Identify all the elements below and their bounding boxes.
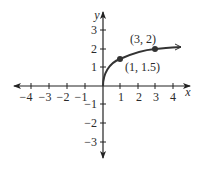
point-1-1.5 bbox=[117, 56, 123, 62]
x-tick-label: 2 bbox=[136, 90, 142, 104]
y-tick-label: −2 bbox=[84, 116, 97, 130]
x-axis-label: x bbox=[184, 85, 191, 99]
x-tick-label: −4 bbox=[20, 90, 33, 104]
graph: −4 −3 −2 −1 1 2 3 4 x 3 2 1 −1 −2 −3 y (… bbox=[0, 0, 201, 169]
point-3-2 bbox=[152, 46, 158, 52]
y-axis-label: y bbox=[93, 8, 100, 22]
x-tick-label: 3 bbox=[153, 90, 159, 104]
x-tick-label: 4 bbox=[170, 90, 176, 104]
y-tick-label: 2 bbox=[91, 42, 97, 56]
y-tick-label: −3 bbox=[84, 135, 97, 149]
y-tick-label: 3 bbox=[91, 23, 97, 37]
x-tick-label: −3 bbox=[39, 90, 52, 104]
x-tick-label: 1 bbox=[118, 90, 124, 104]
x-tick-label: −2 bbox=[57, 90, 70, 104]
point-label-2: (3, 2) bbox=[130, 32, 156, 46]
point-label-1: (1, 1.5) bbox=[125, 60, 160, 74]
y-tick-label: 1 bbox=[91, 60, 97, 74]
y-tick-label: −1 bbox=[84, 97, 97, 111]
